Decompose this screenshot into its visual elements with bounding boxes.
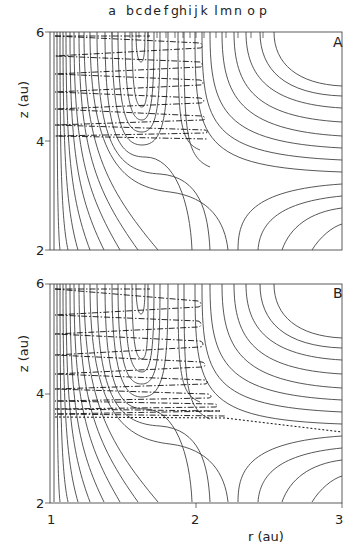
panel-a — [45, 32, 342, 250]
contour-plots — [0, 0, 356, 548]
panel-b — [45, 284, 342, 508]
